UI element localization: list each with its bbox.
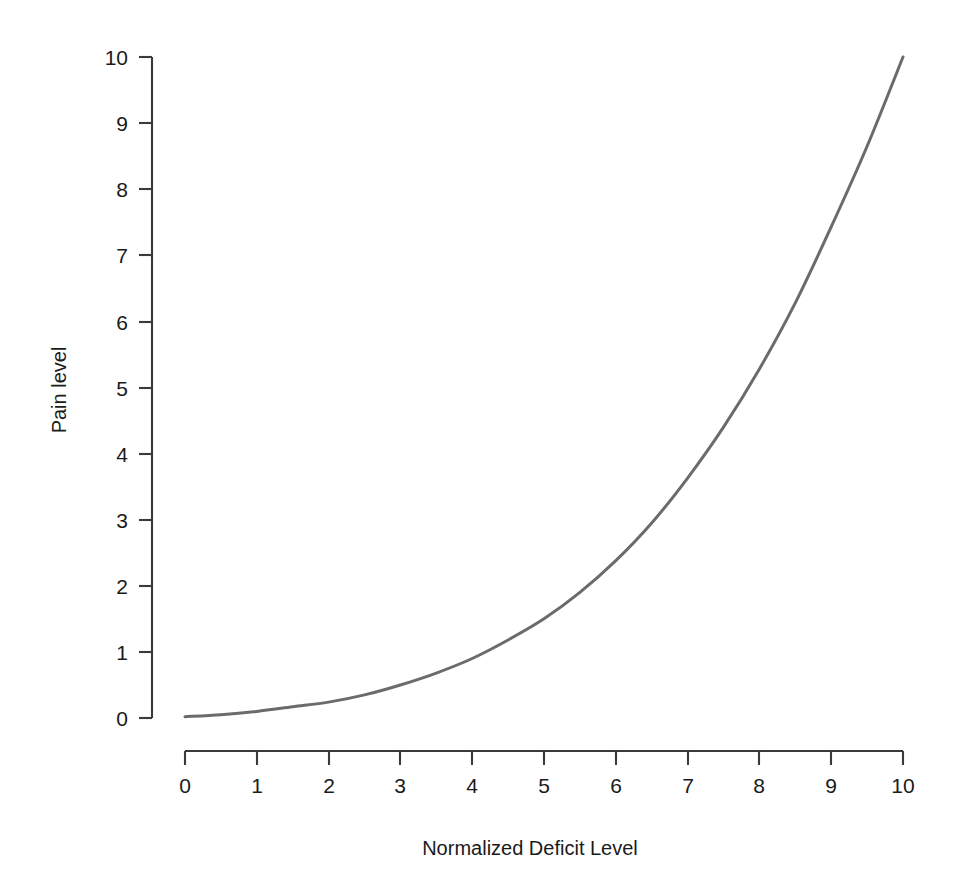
y-axis-title: Pain level (48, 347, 70, 434)
x-tick-label-5: 5 (538, 774, 550, 797)
x-tick-label-0: 0 (179, 774, 191, 797)
x-tick-label-1: 1 (251, 774, 263, 797)
y-tick-label-2: 2 (116, 575, 128, 598)
chart-figure: 10 9 8 7 6 5 4 3 2 1 0 Pain level (0, 0, 959, 892)
x-tick-label-7: 7 (682, 774, 694, 797)
y-tick-label-10: 10 (105, 46, 128, 69)
x-tick-label-4: 4 (466, 774, 478, 797)
x-axis-title: Normalized Deficit Level (422, 837, 638, 859)
x-tick-label-3: 3 (394, 774, 406, 797)
y-tick-label-8: 8 (116, 178, 128, 201)
x-tick-label-9: 9 (825, 774, 837, 797)
x-tick-label-8: 8 (753, 774, 765, 797)
y-tick-label-3: 3 (116, 509, 128, 532)
y-tick-label-4: 4 (116, 443, 128, 466)
y-tick-label-1: 1 (116, 641, 128, 664)
y-tick-label-0: 0 (116, 707, 128, 730)
y-tick-label-6: 6 (116, 311, 128, 334)
x-tick-label-2: 2 (323, 774, 335, 797)
chart-background (0, 0, 959, 892)
x-tick-label-6: 6 (610, 774, 622, 797)
y-tick-label-5: 5 (116, 377, 128, 400)
x-tick-label-10: 10 (891, 774, 914, 797)
pain-vs-deficit-line-chart: 10 9 8 7 6 5 4 3 2 1 0 Pain level (0, 0, 959, 892)
y-tick-label-9: 9 (116, 112, 128, 135)
y-tick-label-7: 7 (116, 244, 128, 267)
